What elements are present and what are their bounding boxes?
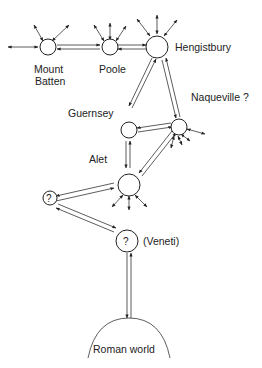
node-poole (102, 39, 118, 55)
label-veneti-q: ? (123, 236, 129, 247)
connections (56, 45, 180, 318)
node-guernsey (121, 122, 137, 138)
node-mount-batten (40, 39, 56, 55)
label-hengistbury: Hengistbury (175, 41, 232, 53)
label-mount-batten-2: Batten (35, 75, 66, 87)
node-hengistbury (146, 36, 168, 58)
label-alet: Alet (89, 153, 107, 165)
label-unknown-1: ? (46, 193, 52, 204)
local-arrows-poole (94, 23, 126, 41)
label-naqueville: Naqueville ? (191, 91, 249, 103)
node-naqueville (171, 119, 187, 135)
local-arrows-alet (112, 195, 147, 210)
label-roman-world: Roman world (93, 343, 155, 355)
local-arrows-hengistbury (137, 15, 177, 36)
node-alet (118, 174, 140, 196)
label-poole: Poole (99, 63, 126, 75)
trade-network-diagram: Mount Batten Poole Hengistbury Guernsey … (0, 0, 262, 368)
label-veneti: (Veneti) (143, 235, 179, 247)
label-mount-batten-1: Mount (34, 63, 63, 75)
local-arrows-mount-batten (8, 25, 69, 47)
label-guernsey: Guernsey (68, 107, 114, 119)
